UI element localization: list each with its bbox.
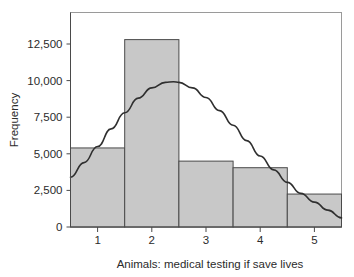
- y-axis-tick-label: 5,000: [34, 148, 63, 160]
- histogram-bar: [287, 194, 341, 227]
- histogram-bar: [233, 168, 287, 227]
- chart-canvas: 02,5005,0007,50010,00012,500 12345 Frequ…: [0, 0, 354, 277]
- histogram-bar: [179, 161, 233, 227]
- x-axis-tick-label: 1: [94, 234, 100, 246]
- x-axis-title: Animals: medical testing if save lives: [117, 258, 304, 270]
- y-axis-tick-label: 10,000: [27, 75, 62, 87]
- y-axis-tick-label: 0: [56, 221, 62, 233]
- x-axis-tick-label: 5: [311, 234, 317, 246]
- histogram-figure: 02,5005,0007,50010,00012,500 12345 Frequ…: [0, 0, 354, 277]
- x-axis-tick-label: 2: [149, 234, 155, 246]
- x-axis-tick-label: 3: [203, 234, 209, 246]
- histogram-bar: [125, 40, 179, 227]
- y-axis-tick-label: 7,500: [34, 111, 63, 123]
- x-axis-tick-label: 4: [257, 234, 264, 246]
- y-axis-title: Frequency: [8, 93, 20, 148]
- histogram-bar: [71, 148, 125, 227]
- y-axis-tick-label: 12,500: [27, 38, 62, 50]
- y-axis-tick-label: 2,500: [34, 184, 63, 196]
